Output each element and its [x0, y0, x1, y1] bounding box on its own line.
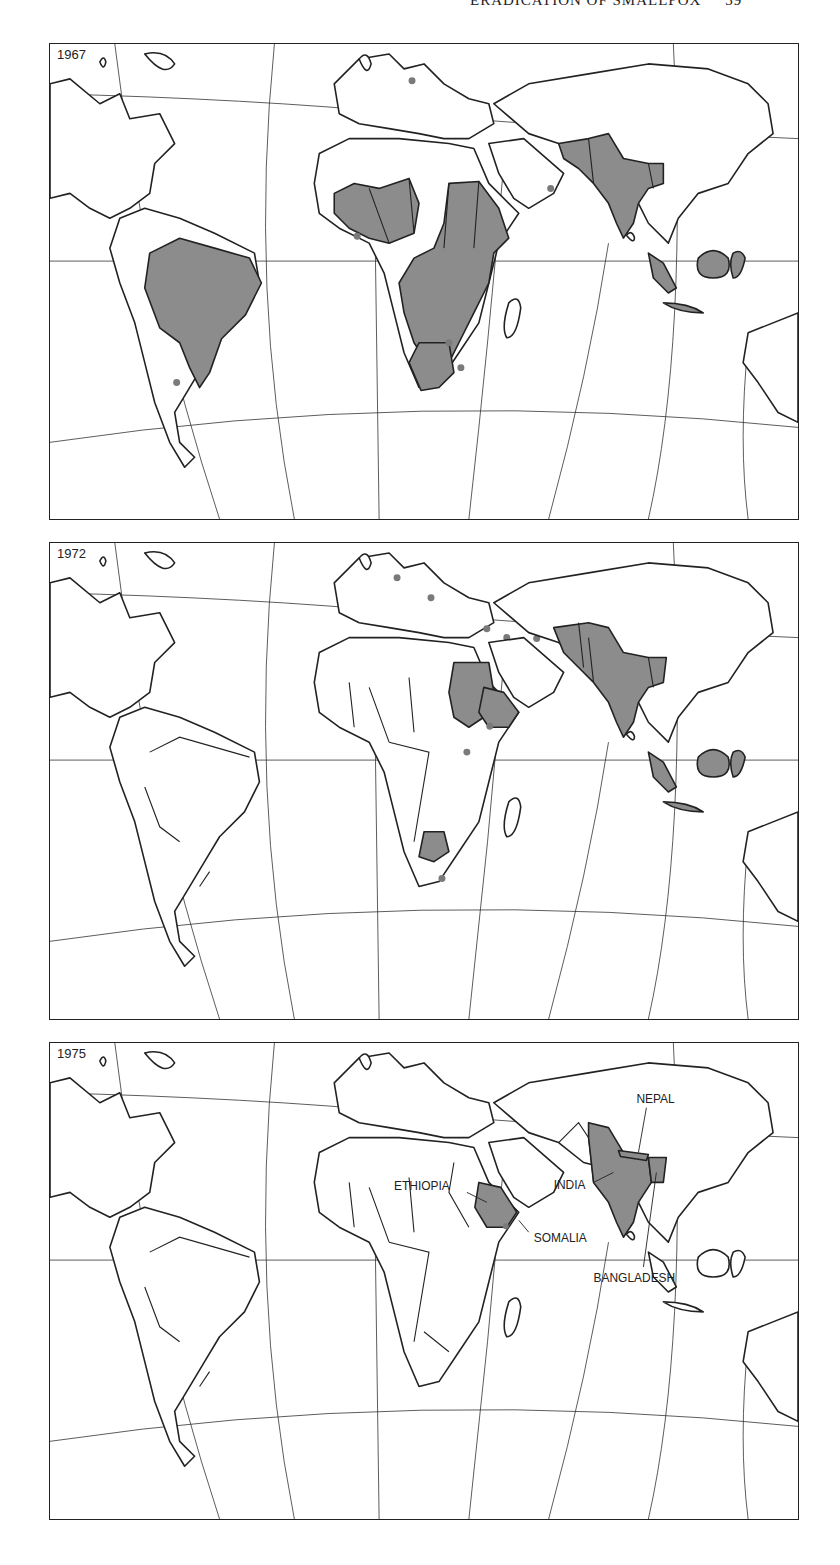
indonesia-endemic — [648, 253, 676, 293]
label-somalia: SOMALIA — [534, 1231, 587, 1245]
year-label: 1967 — [55, 47, 88, 62]
south-america — [110, 707, 260, 966]
label-bangladesh: BANGLADESH — [594, 1271, 676, 1285]
south-america — [110, 1207, 260, 1466]
world-map-1975: ETHIOPIA SOMALIA INDIA NEPAL BANGLADESH — [50, 1043, 798, 1519]
australia — [743, 1312, 798, 1422]
west-africa-endemic — [334, 178, 419, 243]
running-head: ERADICATION OF SMALLPOX39 — [470, 0, 840, 9]
europe — [334, 553, 494, 638]
label-india: INDIA — [554, 1178, 586, 1192]
north-america — [50, 578, 175, 717]
map-panel-1972: 1972 — [49, 542, 799, 1020]
europe — [334, 54, 494, 139]
running-head-title: ERADICATION OF SMALLPOX — [470, 0, 701, 8]
north-america — [50, 79, 175, 218]
africa — [314, 1138, 518, 1387]
world-map-1967 — [50, 44, 798, 519]
north-america — [50, 1078, 175, 1217]
indonesia-endemic — [648, 752, 676, 792]
australia — [743, 812, 798, 922]
map-panel-1975: 1975 — [49, 1042, 799, 1520]
europe — [334, 1053, 494, 1138]
year-label: 1975 — [55, 1046, 88, 1061]
year-label: 1972 — [55, 546, 88, 561]
label-nepal: NEPAL — [636, 1092, 675, 1106]
world-map-1972 — [50, 543, 798, 1019]
southern-africa-endemic — [409, 343, 454, 391]
label-ethiopia: ETHIOPIA — [394, 1179, 450, 1193]
bangladesh-endemic — [648, 1158, 666, 1183]
map-panel-1967: 1967 — [49, 43, 799, 520]
australia — [743, 313, 798, 423]
page-number: 39 — [725, 0, 742, 8]
